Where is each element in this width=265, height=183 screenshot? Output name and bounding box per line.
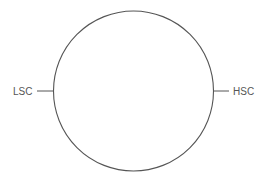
label-hsc: HSC bbox=[233, 86, 254, 97]
main-circle bbox=[54, 11, 214, 171]
diagram-canvas: LSC HSC bbox=[0, 0, 265, 183]
label-lsc: LSC bbox=[13, 86, 32, 97]
